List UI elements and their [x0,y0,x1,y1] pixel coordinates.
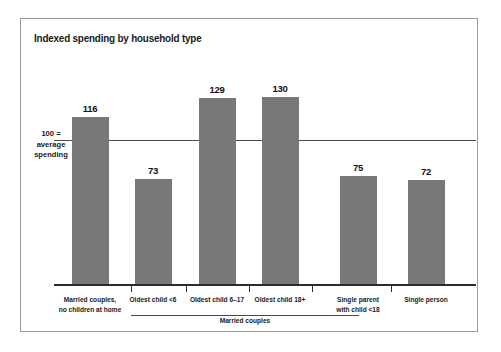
bar-value-label: 129 [210,84,225,95]
chart-frame: Indexed spending by household type 100 =… [20,18,478,332]
bar-3: 130 [262,97,299,284]
bar-rect [135,179,172,284]
group-bracket-line [131,315,359,316]
plot-area: 100 = average spending 116731291307572 M… [21,19,479,333]
reference-value-label: 100 = [21,129,81,140]
category-tick-3 [312,285,313,292]
group-bracket-label: Married couples [131,317,359,324]
bar-rect [340,176,377,284]
y-axis-annotation: 100 = average spending [21,129,81,161]
bar-rect [199,98,236,284]
category-label-3: Oldest child 18+ [235,295,325,305]
bar-1: 73 [135,179,172,284]
category-tick-2 [249,285,250,292]
bar-value-label: 72 [421,166,431,177]
bar-rect [262,97,299,284]
category-tick-1 [186,285,187,292]
reference-desc-line1: average [21,140,81,151]
bar-4: 75 [340,176,377,284]
category-tick-4 [391,285,392,292]
axis-baseline [54,284,476,286]
bar-value-label: 75 [353,162,363,173]
bar-2: 129 [199,98,236,284]
category-tick-0 [131,285,132,292]
bar-5: 72 [408,180,445,284]
bar-value-label: 116 [83,103,97,114]
bar-value-label: 73 [148,165,158,176]
category-label-5: Single person [381,295,471,305]
bar-rect [408,180,445,284]
bar-value-label: 130 [273,83,288,94]
reference-desc-line2: spending [21,150,81,161]
